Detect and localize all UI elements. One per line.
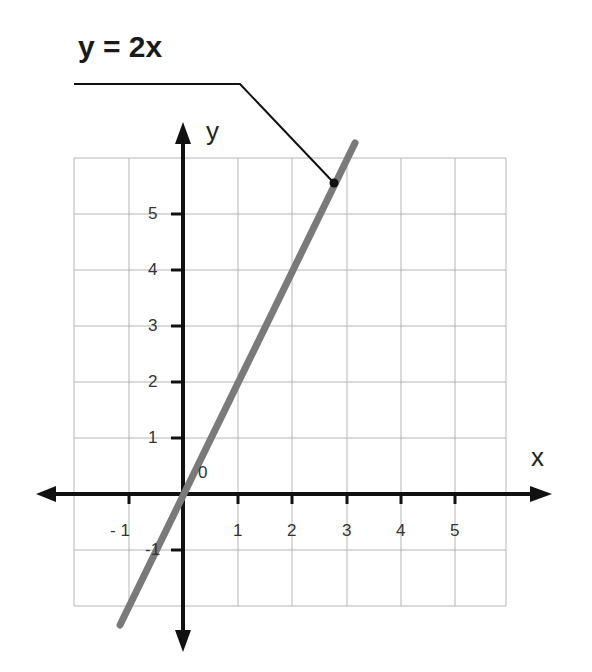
graph-title: y = 2x <box>78 30 162 64</box>
x-tick-label: 4 <box>396 521 405 541</box>
origin-label: 0 <box>198 463 207 483</box>
x-tick-label: 5 <box>450 521 459 541</box>
y-tick-label: -1 <box>145 540 160 560</box>
x-axis-right-arrow-icon <box>530 486 552 502</box>
callout-point <box>330 179 339 188</box>
y-tick-label: 1 <box>148 428 157 448</box>
graph-canvas <box>0 0 592 672</box>
y-tick-label: 4 <box>148 260 157 280</box>
y-tick-label: 5 <box>148 204 157 224</box>
x-tick-label: 3 <box>342 521 351 541</box>
x-axis-label: x <box>531 442 544 473</box>
y-tick-label: 2 <box>148 372 157 392</box>
y-tick-label: 3 <box>148 316 157 336</box>
x-tick-label: - 1 <box>110 521 130 541</box>
x-tick-label: 2 <box>287 521 296 541</box>
callout-leader <box>74 84 334 183</box>
x-axis-left-arrow-icon <box>36 486 56 502</box>
y-axis-label: y <box>206 116 219 147</box>
x-tick-label: 1 <box>233 521 242 541</box>
y-axis-up-arrow-icon <box>175 122 191 144</box>
y-axis-down-arrow-icon <box>175 630 191 652</box>
